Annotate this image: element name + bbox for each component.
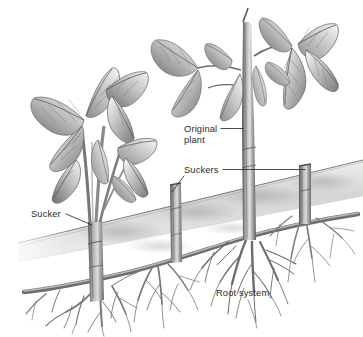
root-system-label: Root system [216, 288, 269, 298]
illustration-canvas: Original plant Suckers Sucker Root syste… [0, 0, 363, 337]
original-plant-label-line2: plant [184, 135, 205, 145]
label-root-system: Root system [216, 288, 269, 298]
plant-propagation-illustration: Original plant Suckers Sucker Root syste… [0, 0, 363, 337]
suckers-label: Suckers [184, 165, 219, 175]
original-plant-label-line1: Original [184, 124, 217, 134]
sucker-shoot-right [299, 164, 311, 224]
sucker-shoot-middle [170, 183, 182, 263]
sucker-label: Sucker [31, 209, 61, 219]
